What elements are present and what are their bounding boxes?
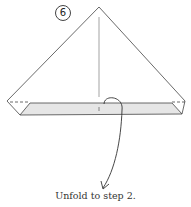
right-corner bbox=[182, 101, 185, 114]
folded-band bbox=[20, 103, 182, 115]
step-number-badge: 6 bbox=[55, 5, 71, 21]
left-corner bbox=[7, 101, 20, 115]
caption: Unfold to step 2. bbox=[0, 190, 191, 201]
origami-diagram bbox=[0, 0, 191, 207]
triangle-outline bbox=[7, 7, 185, 101]
